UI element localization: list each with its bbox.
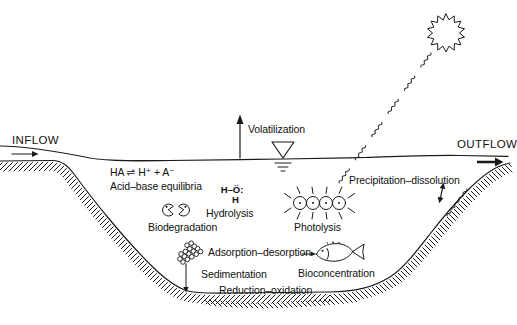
label-biodegradation: Biodegradation (148, 221, 217, 233)
aquatic-fate-diagram: H–Ö: H INFLOW OUTFLOW Volatilization HA … (0, 0, 517, 325)
sedimentation-arrow-icon (183, 264, 188, 293)
label-reduction-oxidation: Reduction–oxidation (219, 284, 313, 296)
label-photolysis: Photolysis (294, 221, 341, 233)
label-inflow: INFLOW (12, 134, 59, 146)
label-precipitation-dissolution: Precipitation–dissolution (349, 174, 460, 186)
light-rays-icon (339, 53, 432, 183)
particle-cluster-icon (178, 241, 203, 264)
sun-icon (428, 14, 465, 52)
label-acid-base: Acid–base equilibria (110, 180, 202, 192)
outflow-arrow-icon (477, 158, 504, 167)
water-molecule-bottom: H (232, 194, 239, 205)
label-outflow: OUTFLOW (457, 138, 517, 150)
water-level-marker-icon (272, 142, 294, 171)
label-volatilization: Volatilization (248, 123, 305, 135)
water-surface (0, 146, 508, 161)
chromophore-icon (285, 187, 355, 219)
diagram-canvas: H–Ö: H INFLOW OUTFLOW Volatilization HA … (0, 0, 517, 325)
inflow-arrow-icon (12, 151, 39, 157)
label-sedimentation: Sedimentation (201, 268, 267, 280)
fish-icon (302, 242, 364, 262)
label-hydrolysis: Hydrolysis (206, 207, 253, 219)
microbes-icon (163, 204, 190, 216)
label-adsorption-desorption: Adsorption–desorption (208, 246, 311, 258)
label-bioconcentration: Bioconcentration (298, 267, 375, 279)
volatilization-arrow-icon (237, 115, 244, 159)
label-acid-base-formula: HA ⇌ H⁺ + A⁻ (110, 166, 175, 178)
water-molecule-icon: H–Ö: H (221, 184, 244, 205)
